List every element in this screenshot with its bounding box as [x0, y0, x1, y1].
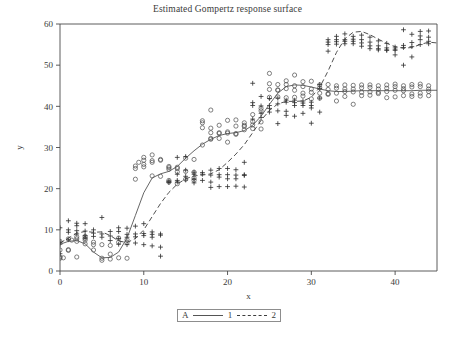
- data-point-plus: [401, 63, 406, 68]
- data-point-circle: [385, 96, 389, 100]
- chart-legend[interactable]: A 1 2: [177, 309, 281, 322]
- x-tick-label: 20: [223, 277, 233, 287]
- data-point-plus: [125, 226, 130, 231]
- data-point-plus: [66, 218, 71, 223]
- data-point-plus: [393, 48, 398, 53]
- data-point-plus: [225, 172, 230, 177]
- data-point-plus: [234, 176, 239, 181]
- data-point-plus: [309, 121, 314, 126]
- data-point-plus: [150, 243, 155, 248]
- data-point-plus: [141, 221, 146, 226]
- data-point-plus: [108, 238, 113, 243]
- data-point-circle: [192, 157, 196, 161]
- data-point-plus: [409, 55, 414, 60]
- data-point-circle: [259, 127, 263, 131]
- data-point-circle: [225, 118, 229, 122]
- data-point-plus: [242, 160, 247, 165]
- plot-frame: [60, 24, 437, 271]
- data-point-plus: [108, 229, 113, 234]
- data-point-circle: [309, 79, 313, 83]
- x-tick-label: 30: [307, 277, 317, 287]
- data-point-plus: [284, 113, 289, 118]
- data-point-plus: [292, 103, 297, 108]
- data-point-circle: [200, 126, 204, 130]
- y-tick-label: 0: [49, 266, 54, 276]
- y-tick-label: 40: [44, 102, 54, 112]
- data-point-plus: [74, 223, 79, 228]
- data-point-circle: [418, 84, 422, 88]
- data-point-circle: [117, 256, 121, 260]
- data-point-plus: [267, 96, 272, 101]
- data-point-circle: [292, 73, 296, 77]
- data-point-plus: [208, 185, 213, 190]
- data-point-circle: [137, 160, 141, 164]
- data-point-circle: [267, 71, 271, 75]
- data-point-circle: [75, 255, 79, 259]
- data-point-plus: [225, 166, 230, 171]
- data-point-circle: [267, 87, 271, 91]
- y-tick-label: 10: [44, 225, 54, 235]
- data-point-plus: [99, 215, 104, 220]
- data-point-circle: [393, 95, 397, 99]
- data-point-plus: [225, 184, 230, 189]
- y-axis-title: y: [14, 145, 24, 150]
- data-point-circle: [209, 108, 213, 112]
- data-point-plus: [259, 94, 264, 99]
- data-point-circle: [142, 158, 146, 162]
- data-point-plus: [108, 234, 113, 239]
- data-point-plus: [301, 103, 306, 108]
- data-point-plus: [275, 108, 280, 113]
- legend-swatch-series-2: [237, 315, 267, 317]
- chart-figure: Estimated Gompertz response surface 0102…: [0, 0, 455, 338]
- legend-label-series-1: 1: [228, 311, 233, 320]
- data-point-plus: [426, 29, 431, 34]
- data-point-plus: [83, 221, 88, 226]
- data-point-plus: [351, 41, 356, 46]
- data-point-circle: [360, 86, 364, 90]
- data-point-plus: [426, 41, 431, 46]
- data-point-plus: [175, 155, 180, 160]
- data-point-circle: [301, 80, 305, 84]
- data-point-circle: [133, 177, 137, 181]
- data-point-circle: [334, 99, 338, 103]
- y-tick-label: 50: [44, 60, 54, 70]
- data-point-plus: [309, 106, 314, 111]
- data-point-plus: [200, 178, 205, 183]
- data-point-plus: [250, 81, 255, 86]
- data-point-plus: [418, 29, 423, 34]
- data-point-plus: [133, 241, 138, 246]
- data-point-plus: [326, 42, 331, 47]
- data-point-plus: [66, 230, 71, 235]
- data-point-plus: [158, 254, 163, 259]
- data-point-plus: [409, 44, 414, 49]
- data-point-circle: [234, 124, 238, 128]
- data-point-circle: [276, 82, 280, 86]
- series-markers-1: [58, 71, 431, 262]
- data-point-circle: [343, 94, 347, 98]
- data-point-plus: [401, 27, 406, 32]
- legend-title: A: [182, 311, 189, 320]
- data-point-plus: [183, 168, 188, 173]
- data-point-circle: [209, 131, 213, 135]
- data-point-plus: [150, 235, 155, 240]
- legend-swatch-series-1: [193, 315, 223, 317]
- data-point-plus: [275, 96, 280, 101]
- data-point-circle: [100, 243, 104, 247]
- data-point-circle: [217, 136, 221, 140]
- series-fit-line-1: [60, 85, 437, 258]
- data-point-circle: [292, 84, 296, 88]
- y-tick-label: 20: [44, 184, 54, 194]
- data-point-plus: [334, 42, 339, 47]
- data-point-circle: [217, 123, 221, 127]
- data-point-plus: [426, 35, 431, 40]
- plot-area: 0102030405060010203040xy: [0, 0, 455, 338]
- data-point-plus: [384, 48, 389, 53]
- data-point-plus: [418, 37, 423, 42]
- data-point-plus: [317, 110, 322, 115]
- data-point-plus: [91, 234, 96, 239]
- data-point-plus: [275, 121, 280, 126]
- data-point-circle: [267, 82, 271, 86]
- data-point-plus: [217, 175, 222, 180]
- data-point-circle: [142, 165, 146, 169]
- data-point-plus: [292, 114, 297, 119]
